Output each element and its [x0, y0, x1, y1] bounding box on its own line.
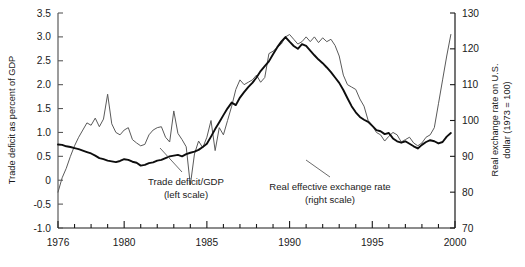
x-tick-label: 1985	[196, 237, 219, 248]
left-tick-label: -0.5	[33, 199, 51, 210]
left-tick-label: 3.5	[37, 8, 51, 19]
trade-deficit-annotation-sublabel: (left scale)	[164, 189, 208, 200]
right-tick-label: 120	[462, 43, 479, 54]
exchange-rate-trade-deficit-chart: -1.0-0.500.51.01.52.02.53.03.5 708090100…	[0, 0, 525, 267]
left-tick-label: 0.5	[37, 151, 51, 162]
trade-deficit-annotation-label: Trade deficit/GDP	[148, 176, 224, 187]
chart-background	[0, 0, 525, 267]
x-tick-label: 1980	[113, 237, 136, 248]
right-tick-label: 80	[462, 187, 474, 198]
left-tick-label: 0	[45, 175, 51, 186]
left-tick-label: 1.5	[37, 103, 51, 114]
x-tick-label: 1995	[361, 237, 384, 248]
right-tick-label: 100	[462, 115, 479, 126]
left-tick-label: -1.0	[33, 223, 51, 234]
left-tick-label: 2.0	[37, 79, 51, 90]
y2-axis-title-line1: Real exchange rate on U.S.	[490, 64, 500, 177]
right-tick-label: 130	[462, 8, 479, 19]
y-axis-title: Trade deficit as percent of GDP	[7, 56, 17, 184]
left-tick-label: 3.0	[37, 31, 51, 42]
x-tick-label: 1990	[278, 237, 301, 248]
chart-root: -1.0-0.500.51.01.52.02.53.03.5 708090100…	[0, 0, 525, 267]
x-tick-label: 1976	[47, 237, 70, 248]
x-tick-label: 2000	[444, 237, 467, 248]
y2-axis-title-line2: dollar (1973 = 100)	[502, 81, 512, 158]
exchange-rate-annotation-label: Real effective exchange rate	[269, 181, 390, 192]
right-tick-label: 70	[462, 223, 474, 234]
left-tick-label: 1.0	[37, 127, 51, 138]
exchange-rate-annotation-sublabel: (right scale)	[305, 194, 355, 205]
left-tick-label: 2.5	[37, 55, 51, 66]
right-tick-label: 90	[462, 151, 474, 162]
right-tick-label: 110	[462, 79, 479, 90]
